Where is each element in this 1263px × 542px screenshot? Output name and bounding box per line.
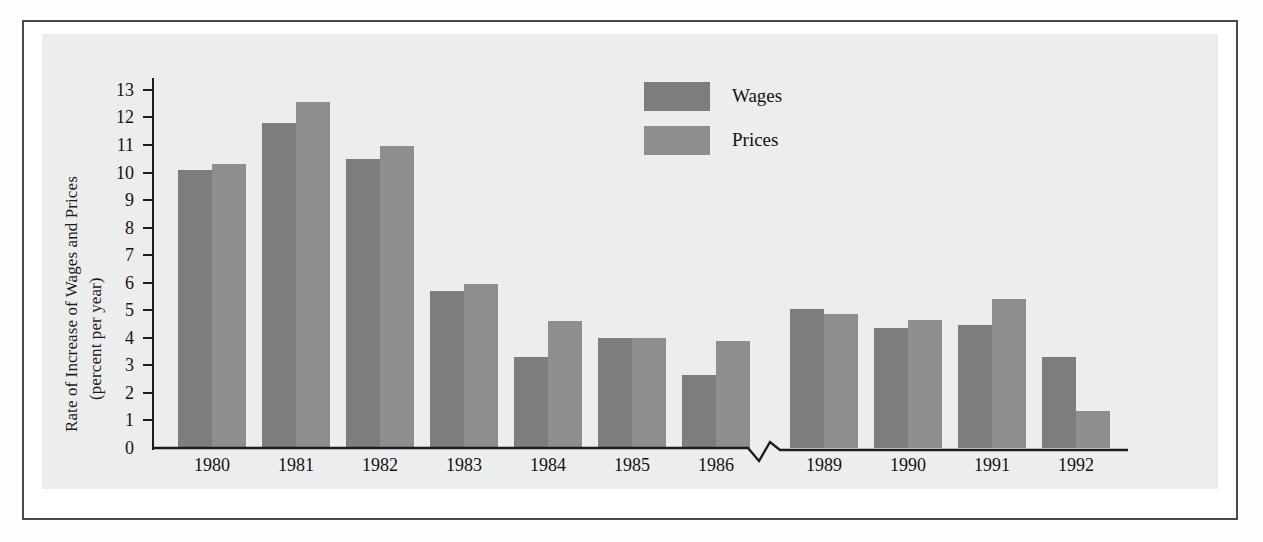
- x-tick-label-1984: 1984: [530, 455, 566, 476]
- bar-wages-1983: [430, 291, 464, 448]
- legend-row-prices: Prices: [644, 122, 782, 158]
- legend-label-wages: Wages: [732, 85, 782, 107]
- bar-wages-1989: [790, 309, 824, 448]
- bar-prices-1982: [380, 146, 414, 448]
- chart-legend: WagesPrices: [644, 78, 782, 166]
- bar-prices-1991: [992, 299, 1026, 448]
- x-tick-label-1989: 1989: [806, 455, 842, 476]
- bar-prices-1986: [716, 341, 750, 448]
- figure-page: Rate of Increase of Wages and Prices (pe…: [0, 0, 1263, 542]
- bar-prices-1980: [212, 164, 246, 448]
- x-tick-label-1990: 1990: [890, 455, 926, 476]
- x-tick-label-1992: 1992: [1058, 455, 1094, 476]
- x-tick-label-1983: 1983: [446, 455, 482, 476]
- x-tick-label-1980: 1980: [194, 455, 230, 476]
- bar-chart: Rate of Increase of Wages and Prices (pe…: [0, 0, 1263, 542]
- bar-prices-1992: [1076, 411, 1110, 448]
- bar-prices-1981: [296, 102, 330, 448]
- x-tick-label-1986: 1986: [698, 455, 734, 476]
- legend-swatch-wages: [644, 82, 710, 111]
- bar-prices-1984: [548, 321, 582, 448]
- legend-row-wages: Wages: [644, 78, 782, 114]
- bar-prices-1985: [632, 338, 666, 448]
- x-tick-label-1981: 1981: [278, 455, 314, 476]
- bar-wages-1991: [958, 325, 992, 448]
- x-tick-label-1985: 1985: [614, 455, 650, 476]
- legend-label-prices: Prices: [732, 129, 778, 151]
- x-tick-label-1982: 1982: [362, 455, 398, 476]
- bar-wages-1990: [874, 328, 908, 448]
- bar-wages-1981: [262, 123, 296, 448]
- bar-wages-1984: [514, 357, 548, 448]
- bar-wages-1985: [598, 338, 632, 448]
- bars-layer: [0, 0, 1263, 450]
- legend-swatch-prices: [644, 126, 710, 155]
- bar-wages-1986: [682, 375, 716, 448]
- x-tick-label-1991: 1991: [974, 455, 1010, 476]
- bar-prices-1990: [908, 320, 942, 448]
- bar-prices-1983: [464, 284, 498, 448]
- bar-wages-1982: [346, 159, 380, 448]
- bar-wages-1980: [178, 170, 212, 448]
- bar-wages-1992: [1042, 357, 1076, 448]
- bar-prices-1989: [824, 314, 858, 448]
